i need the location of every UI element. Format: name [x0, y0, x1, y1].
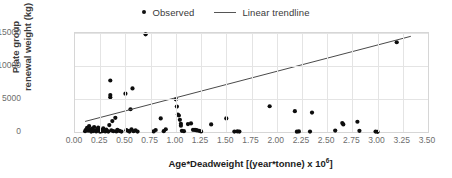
- y-axis-tick-label: 10000: [0, 60, 21, 70]
- gridline-vertical: [327, 33, 328, 132]
- plot-area: [74, 32, 429, 133]
- gridline-horizontal: [75, 99, 428, 100]
- gridline-vertical: [176, 33, 177, 132]
- gridline-vertical: [403, 33, 404, 132]
- data-point: [293, 109, 297, 113]
- data-point: [164, 127, 168, 131]
- data-point: [154, 128, 158, 132]
- gridline-vertical: [100, 33, 101, 132]
- data-point: [110, 119, 114, 123]
- data-point: [189, 121, 193, 125]
- data-point: [177, 113, 181, 117]
- y-axis-tick-label: 0: [0, 126, 21, 136]
- y-axis-tick-label: 5000: [0, 93, 21, 103]
- gridline-vertical: [352, 33, 353, 132]
- y-axis-tick-label: 15000: [0, 27, 21, 37]
- data-point: [119, 130, 123, 134]
- observed-marker-icon: [142, 10, 146, 14]
- legend-entry-trendline: Linear trendline: [214, 7, 309, 18]
- gridline-horizontal: [75, 66, 428, 67]
- scatter-chart-figure: Observed Linear trendline Plate group re…: [0, 0, 452, 178]
- data-point: [341, 122, 345, 126]
- gridline-vertical: [151, 33, 152, 132]
- linear-trendline: [85, 36, 411, 121]
- gridline-vertical: [302, 33, 303, 132]
- data-point: [179, 124, 183, 128]
- data-point: [135, 130, 139, 134]
- data-point: [297, 129, 301, 133]
- y-axis-title-line2: renewal weight (kg): [22, 3, 33, 91]
- trendline-marker-icon: [214, 12, 236, 13]
- legend-label-observed: Observed: [152, 7, 194, 18]
- y-axis-title: Plate group renewal weight (kg): [2, 0, 42, 102]
- gridline-vertical: [252, 33, 253, 132]
- data-point: [268, 104, 272, 108]
- data-point: [310, 110, 314, 114]
- x-axis-title-text: Age*Deadweight [(year*tonne) x 10: [168, 158, 325, 169]
- data-point: [355, 120, 359, 124]
- x-axis-tick-label: 3.50: [410, 135, 444, 145]
- x-axis-title: Age*Deadweight [(year*tonne) x 106]: [74, 157, 427, 169]
- chart-legend: Observed Linear trendline: [0, 3, 452, 21]
- x-axis-title-suffix: ]: [329, 158, 332, 169]
- gridline-vertical: [226, 33, 227, 132]
- data-point: [178, 118, 182, 122]
- data-point: [209, 122, 213, 126]
- data-point: [113, 116, 117, 120]
- data-point: [182, 129, 186, 133]
- data-point: [108, 78, 112, 82]
- data-point: [333, 128, 337, 132]
- data-point: [159, 116, 163, 120]
- gridline-vertical: [378, 33, 379, 132]
- gridline-vertical: [277, 33, 278, 132]
- legend-entry-observed: Observed: [142, 7, 194, 18]
- gridline-horizontal: [75, 33, 428, 34]
- data-point: [357, 129, 361, 133]
- data-point: [237, 130, 241, 134]
- gridline-vertical: [125, 33, 126, 132]
- data-point: [130, 86, 134, 90]
- data-point: [308, 129, 312, 133]
- data-point: [107, 123, 111, 127]
- gridline-vertical: [201, 33, 202, 132]
- legend-label-trendline: Linear trendline: [242, 7, 309, 18]
